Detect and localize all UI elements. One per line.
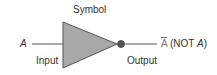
complement-a: A — [161, 38, 167, 49]
inversion-bubble — [118, 41, 125, 48]
not-paren-close: ) — [204, 38, 207, 49]
not-gate-triangle — [63, 22, 117, 68]
not-variable: A — [197, 38, 204, 49]
symbol-title: Symbol — [73, 4, 106, 16]
output-label: Output — [127, 55, 157, 67]
output-expression: A (NOT A) — [161, 38, 207, 50]
not-paren-open: (NOT — [170, 38, 197, 49]
input-variable: A — [20, 38, 27, 50]
input-label: Input — [36, 55, 58, 67]
